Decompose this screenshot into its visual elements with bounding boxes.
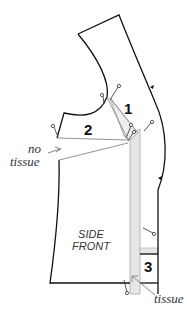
arrow-icon xyxy=(48,147,61,153)
pin-icon xyxy=(51,124,58,137)
pin-icon xyxy=(110,84,121,100)
side-front-label-line1: SIDE xyxy=(72,228,110,240)
side-front-label: SIDE FRONT xyxy=(72,228,110,252)
side-front-label-line2: FRONT xyxy=(72,240,110,252)
pin-icon xyxy=(143,228,156,236)
notch-marks xyxy=(150,85,162,180)
step-2-label: 2 xyxy=(84,122,92,137)
pin-icon xyxy=(124,280,129,295)
side-front-outline xyxy=(50,160,158,283)
step-3-label: 3 xyxy=(144,259,152,274)
no-tissue-label-line2: tissue xyxy=(10,155,40,168)
tissue-label: tissue xyxy=(154,292,184,305)
pin-icon xyxy=(100,93,104,104)
pin-icon xyxy=(144,120,154,131)
step-1-label: 1 xyxy=(124,101,132,116)
